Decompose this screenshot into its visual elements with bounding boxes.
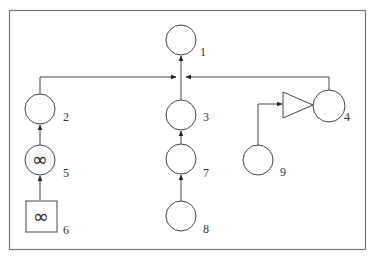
node-9 — [243, 145, 273, 175]
label-node-5: 5 — [63, 166, 69, 180]
label-node-3: 3 — [203, 110, 209, 124]
edge-2-to-1 — [40, 77, 176, 94]
label-node-7: 7 — [203, 166, 209, 180]
label-node-1: 1 — [200, 45, 206, 59]
node-7 — [166, 144, 196, 174]
label-node-9: 9 — [280, 165, 286, 179]
label-node-4: 4 — [344, 110, 350, 124]
amplifier-triangle — [283, 92, 313, 118]
node-8 — [166, 201, 196, 231]
edge-4-to-1 — [186, 77, 329, 91]
node-4 — [313, 90, 345, 122]
node-1 — [166, 25, 196, 55]
label-node-6: 6 — [63, 223, 69, 237]
node-3 — [166, 100, 196, 130]
node-2 — [25, 94, 55, 124]
infinity-icon-node-6: ∞ — [33, 205, 49, 227]
block-diagram: ∞ ∞ 1 2 3 4 5 6 7 8 9 — [0, 0, 376, 260]
infinity-icon-node-5: ∞ — [32, 148, 48, 170]
label-node-8: 8 — [203, 222, 209, 236]
label-node-2: 2 — [63, 110, 69, 124]
edge-9-to-amp — [258, 104, 282, 145]
